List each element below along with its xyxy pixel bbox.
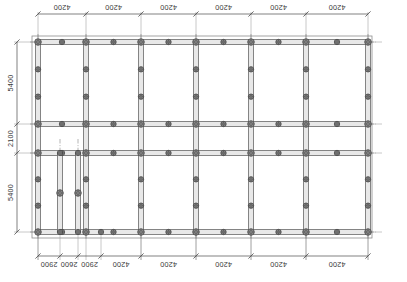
- column-grid: [83, 229, 90, 236]
- column-extra-midheight: [57, 190, 64, 197]
- column-grid: [248, 150, 255, 157]
- column-midspan-vertical: [303, 177, 308, 182]
- column-midspan-horizontal: [59, 39, 64, 44]
- column-midspan-vertical: [138, 94, 143, 99]
- column-midspan-vertical: [193, 203, 198, 208]
- column-midspan-vertical: [35, 94, 40, 99]
- dimension-label-bottom: 4200: [112, 260, 129, 269]
- column-grid: [303, 121, 310, 128]
- column-midspan-vertical: [248, 94, 253, 99]
- column-grid: [365, 150, 372, 157]
- column-midspan-vertical: [35, 203, 40, 208]
- column-grid: [83, 39, 90, 46]
- column-bottom-subgrid: [98, 229, 103, 234]
- dimension-label-bottom: 2900: [81, 260, 98, 269]
- dimension-label-bottom: 4200: [328, 260, 345, 269]
- dimension-label-top: 4200: [215, 3, 232, 12]
- column-midspan-vertical: [248, 67, 253, 72]
- dimension-label-bottom: 4200: [270, 260, 287, 269]
- column-midspan-horizontal: [221, 39, 226, 44]
- structural-framing-plan: 4200420042004200420042002900260029004200…: [0, 0, 407, 282]
- column-midspan-horizontal: [111, 229, 116, 234]
- column-bottom-subgrid: [75, 229, 80, 234]
- column-grid: [138, 39, 145, 46]
- dimension-label-top: 4200: [53, 3, 70, 12]
- column-grid: [193, 39, 200, 46]
- column-grid: [35, 39, 42, 46]
- column-midspan-vertical: [83, 177, 88, 182]
- building-outline: [32, 36, 372, 238]
- column-midspan-horizontal: [334, 121, 339, 126]
- dimension-label-left: 5400: [6, 74, 15, 91]
- column-grid: [138, 121, 145, 128]
- dimension-lines-layer: [14, 11, 370, 258]
- column-grid: [365, 39, 372, 46]
- column-midspan-vertical: [365, 94, 370, 99]
- column-grid: [248, 121, 255, 128]
- column-midspan-vertical: [303, 67, 308, 72]
- column-midspan-horizontal: [59, 121, 64, 126]
- column-midspan-vertical: [35, 177, 40, 182]
- column-midspan-vertical: [248, 203, 253, 208]
- column-grid: [35, 150, 42, 157]
- column-extra-midheight: [75, 190, 82, 197]
- column-grid: [138, 150, 145, 157]
- column-grid: [83, 121, 90, 128]
- column-midspan-vertical: [248, 177, 253, 182]
- dimension-label-bottom: 2900: [40, 260, 57, 269]
- column-grid: [365, 229, 372, 236]
- column-grid: [248, 39, 255, 46]
- column-midspan-vertical: [138, 177, 143, 182]
- column-midspan-vertical: [365, 67, 370, 72]
- column-midspan-horizontal: [221, 229, 226, 234]
- column-midspan-vertical: [365, 203, 370, 208]
- column-midspan-horizontal: [166, 121, 171, 126]
- column-midspan-vertical: [303, 203, 308, 208]
- column-midspan-horizontal: [334, 39, 339, 44]
- column-midspan-vertical: [83, 203, 88, 208]
- column-grid: [365, 121, 372, 128]
- column-grid: [83, 150, 90, 157]
- column-midspan-vertical: [83, 67, 88, 72]
- dimension-label-left: 2100: [6, 130, 15, 147]
- column-midspan-horizontal: [221, 150, 226, 155]
- column-midspan-horizontal: [221, 121, 226, 126]
- column-midspan-horizontal: [166, 39, 171, 44]
- column-midspan-horizontal: [334, 150, 339, 155]
- column-grid: [193, 229, 200, 236]
- column-grid: [193, 121, 200, 128]
- column-midspan-vertical: [303, 94, 308, 99]
- dimension-label-left: 5400: [6, 184, 15, 201]
- column-grid: [303, 150, 310, 157]
- column-midspan-vertical: [365, 177, 370, 182]
- column-midspan-vertical: [193, 177, 198, 182]
- column-extra-top: [57, 150, 62, 155]
- building-outline-layer: [32, 36, 372, 238]
- grid-centerlines-layer: [30, 34, 376, 240]
- column-midspan-vertical: [193, 67, 198, 72]
- column-grid: [35, 229, 42, 236]
- column-midspan-vertical: [138, 67, 143, 72]
- column-midspan-horizontal: [276, 229, 281, 234]
- dimension-label-top: 4200: [105, 3, 122, 12]
- column-midspan-vertical: [83, 94, 88, 99]
- column-grid: [138, 229, 145, 236]
- plan-canvas: 4200420042004200420042002900260029004200…: [0, 0, 407, 282]
- dimension-label-bottom: 2600: [60, 260, 77, 269]
- column-grid: [35, 121, 42, 128]
- column-grid: [193, 150, 200, 157]
- dimension-label-top: 4200: [270, 3, 287, 12]
- column-midspan-vertical: [35, 67, 40, 72]
- column-midspan-horizontal: [166, 229, 171, 234]
- column-midspan-horizontal: [276, 39, 281, 44]
- column-extra-top: [75, 150, 80, 155]
- column-midspan-horizontal: [166, 150, 171, 155]
- column-grid: [303, 229, 310, 236]
- column-midspan-horizontal: [111, 39, 116, 44]
- dimension-label-top: 4200: [328, 3, 345, 12]
- column-grid: [248, 229, 255, 236]
- column-grid: [303, 39, 310, 46]
- column-midspan-horizontal: [334, 229, 339, 234]
- column-midspan-horizontal: [111, 121, 116, 126]
- column-midspan-vertical: [138, 203, 143, 208]
